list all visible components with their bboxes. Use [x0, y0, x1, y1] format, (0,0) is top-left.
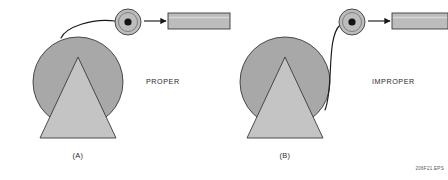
verdict-label-a: PROPER: [146, 77, 180, 86]
feed-tube-a: [168, 13, 230, 29]
panel-b-group: IMPROPER (B): [240, 9, 448, 160]
wire-feed-diagram: PROPER (A) IMPROPER (B) 206F21.EPS: [0, 0, 448, 180]
panel-label-a: (A): [73, 151, 84, 160]
panel-a-group: PROPER (A): [33, 9, 230, 160]
figure-canvas: PROPER (A) IMPROPER (B) 206F21.EPS: [0, 0, 448, 180]
figure-code-label: 206F21.EPS: [415, 166, 444, 171]
panel-label-b: (B): [280, 151, 291, 160]
wire-path-a: [61, 20, 115, 38]
roller-a-hub: [124, 18, 131, 25]
verdict-label-b: IMPROPER: [372, 77, 415, 86]
feed-tube-b: [392, 13, 448, 29]
roller-b-hub: [348, 18, 355, 25]
